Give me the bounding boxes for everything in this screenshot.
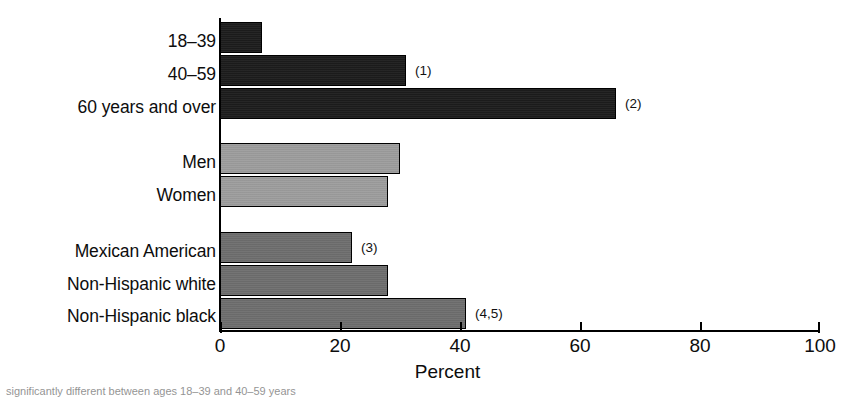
bar-non-hispanic-white bbox=[220, 265, 388, 296]
bar-non-hispanic-black bbox=[220, 298, 466, 329]
x-axis-tick-60 bbox=[580, 322, 582, 331]
y-axis-line bbox=[219, 18, 221, 332]
annotation-age-60-plus: (2) bbox=[625, 97, 642, 111]
annotation-mexican-american: (3) bbox=[361, 241, 378, 255]
x-axis-tick-80 bbox=[700, 322, 702, 331]
x-axis-tick-label-40: 40 bbox=[449, 336, 470, 355]
bar-mexican-american bbox=[220, 232, 352, 263]
x-axis-title-text: Percent bbox=[415, 362, 480, 381]
x-axis-tick-20 bbox=[340, 322, 342, 331]
x-axis-tick-label-80: 80 bbox=[689, 336, 710, 355]
category-label-women: Women bbox=[157, 187, 216, 205]
category-label-age-40-59: 40–59 bbox=[168, 66, 216, 84]
annotation-non-hispanic-black: (4,5) bbox=[475, 307, 503, 321]
plot-area: (1) (2) (3) (4,5) bbox=[220, 20, 820, 330]
x-axis-tick-40 bbox=[460, 322, 462, 331]
category-label-men: Men bbox=[182, 154, 216, 172]
category-label-non-hispanic-black: Non-Hispanic black bbox=[67, 308, 216, 326]
x-axis-tick-label-0: 0 bbox=[215, 336, 226, 355]
x-axis-tick-0 bbox=[220, 322, 222, 333]
bar-women bbox=[220, 176, 388, 207]
annotation-age-40-59: (1) bbox=[415, 64, 432, 78]
x-axis-tick-label-20: 20 bbox=[329, 336, 350, 355]
bar-age-18-39 bbox=[220, 22, 262, 53]
x-axis-line bbox=[220, 330, 820, 332]
x-axis-tick-100 bbox=[818, 322, 820, 333]
category-label-mexican-american: Mexican American bbox=[75, 243, 216, 261]
bar-age-60-plus bbox=[220, 88, 616, 119]
x-axis-tick-label-100: 100 bbox=[804, 336, 836, 355]
category-label-non-hispanic-white: Non-Hispanic white bbox=[67, 276, 216, 294]
horizontal-bar-chart: 18–39 40–59 60 years and over Men Women … bbox=[0, 0, 855, 397]
x-axis-tick-label-60: 60 bbox=[569, 336, 590, 355]
chart-footnote: significantly different between ages 18–… bbox=[6, 386, 296, 397]
category-label-age-60-plus: 60 years and over bbox=[78, 99, 216, 117]
category-label-age-18-39: 18–39 bbox=[168, 33, 216, 51]
bar-age-40-59 bbox=[220, 55, 406, 86]
x-axis-title: Percent bbox=[0, 362, 855, 381]
bar-men bbox=[220, 143, 400, 174]
